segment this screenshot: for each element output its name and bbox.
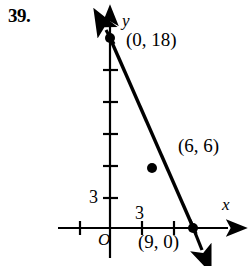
- y-tick-label-3: 3: [89, 188, 98, 206]
- x-axis-label: x: [222, 196, 230, 213]
- y-axis: [103, 24, 118, 258]
- coordinate-plane-svg: [0, 0, 250, 266]
- point-marker-6-6: [147, 163, 157, 173]
- y-axis-label: y: [122, 12, 130, 29]
- x-tick-label-3: 3: [135, 204, 144, 222]
- point-marker-x-intercept: [188, 223, 198, 233]
- point-label-6-6: (6, 6): [178, 136, 219, 155]
- point-marker-y-intercept: [105, 33, 115, 43]
- point-label-y-intercept: (0, 18): [126, 30, 177, 49]
- graph-figure: 39.: [0, 0, 250, 266]
- point-label-x-intercept: (9, 0): [138, 232, 179, 251]
- origin-label: O: [98, 231, 110, 248]
